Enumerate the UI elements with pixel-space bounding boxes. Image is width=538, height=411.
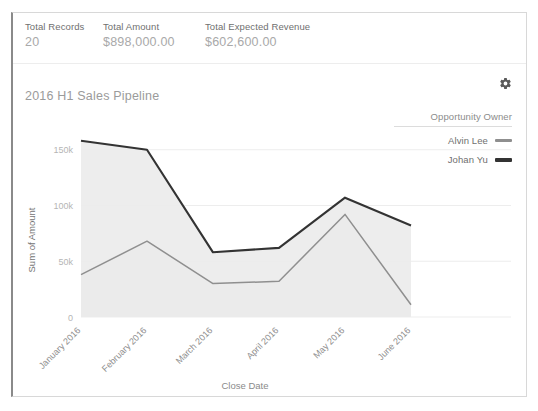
metric-label: Total Expected Revenue bbox=[205, 21, 310, 32]
chart-xtick-label: February 2016 bbox=[100, 325, 148, 373]
chart-xtick-labels: January 2016February 2016March 2016April… bbox=[37, 325, 413, 373]
chart-xtick-label: June 2016 bbox=[376, 325, 413, 362]
summary-metric-total-records: Total Records 20 bbox=[25, 21, 84, 49]
chart-xtick-label: March 2016 bbox=[174, 325, 215, 366]
chart-xtick-label: January 2016 bbox=[37, 325, 83, 371]
metric-value: $602,600.00 bbox=[205, 35, 310, 49]
legend-item-swatch bbox=[495, 158, 512, 162]
summary-header: Total Records 20 Total Amount $898,000.0… bbox=[13, 13, 526, 64]
metric-value: $898,000.00 bbox=[103, 35, 175, 49]
chart-yaxis-title: Sum of Amount bbox=[26, 207, 37, 272]
chart-legend: Opportunity Owner Alvin LeeJohan Yu bbox=[394, 111, 512, 165]
legend-title: Opportunity Owner bbox=[394, 111, 512, 127]
chart-ytick-label: 100k bbox=[53, 201, 73, 211]
legend-item-swatch bbox=[495, 139, 512, 142]
legend-item[interactable]: Alvin Lee bbox=[394, 135, 512, 146]
legend-item[interactable]: Johan Yu bbox=[394, 154, 512, 165]
legend-items: Alvin LeeJohan Yu bbox=[394, 135, 512, 165]
chart-xaxis-title: Close Date bbox=[222, 380, 269, 391]
summary-metric-total-expected-revenue: Total Expected Revenue $602,600.00 bbox=[205, 21, 310, 49]
chart-ytick-label: 150k bbox=[53, 145, 73, 155]
legend-item-label: Johan Yu bbox=[448, 154, 488, 165]
chart-xtick-label: April 2016 bbox=[245, 325, 281, 361]
legend-item-label: Alvin Lee bbox=[448, 135, 488, 146]
report-card: Total Records 20 Total Amount $898,000.0… bbox=[11, 12, 527, 397]
metric-value: 20 bbox=[25, 35, 84, 49]
metric-label: Total Records bbox=[25, 21, 84, 32]
metric-label: Total Amount bbox=[103, 21, 175, 32]
chart-ytick-labels: 050k100k150k bbox=[53, 145, 73, 322]
chart-xtick-label: May 2016 bbox=[311, 325, 346, 360]
chart-series-areas bbox=[81, 141, 411, 317]
chart-ytick-label: 50k bbox=[58, 257, 73, 267]
chart-series-area bbox=[81, 141, 411, 317]
chart-card: 2016 H1 Sales Pipeline 050k100k150k Sum … bbox=[13, 65, 526, 397]
summary-metric-total-amount: Total Amount $898,000.00 bbox=[103, 21, 175, 49]
chart-ytick-label: 0 bbox=[68, 313, 73, 323]
